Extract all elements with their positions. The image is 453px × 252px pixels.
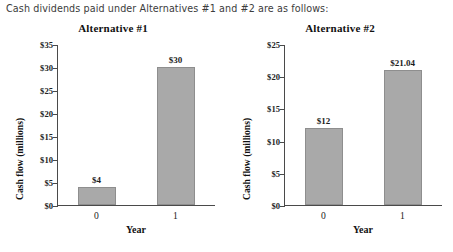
bar: [305, 128, 343, 205]
y-tick-mark: [53, 114, 58, 115]
y-tick-mark: [53, 68, 58, 69]
y-tick-mark: [53, 206, 58, 207]
y-tick-label: $10: [40, 155, 53, 165]
y-tick-mark: [280, 45, 285, 46]
y-tick-label: $25: [40, 86, 53, 96]
x-axis-title: Year: [57, 224, 215, 235]
y-tick-label: $20: [40, 109, 53, 119]
y-tick-mark: [53, 137, 58, 138]
x-tick-label: 0: [94, 210, 99, 221]
y-tick-label: $15: [267, 104, 280, 114]
y-tick-mark: [53, 183, 58, 184]
bar: [384, 70, 422, 205]
y-tick-mark: [280, 142, 285, 143]
y-tick-label: $30: [40, 63, 53, 73]
chart-alternative-1: Alternative #1 Cash flow (millions) $0$5…: [0, 22, 226, 252]
y-axis-title: Cash flow (millions): [14, 118, 25, 200]
y-tick-label: $25: [267, 40, 280, 50]
bar-value-label: $30: [169, 55, 183, 65]
y-axis-title: Cash flow (millions): [241, 118, 252, 200]
x-axis-line: [57, 205, 215, 206]
y-tick-mark: [280, 174, 285, 175]
y-tick-mark: [280, 206, 285, 207]
bar-value-label: $21.04: [390, 58, 415, 68]
y-tick-label: $0: [44, 201, 53, 211]
y-tick-mark: [53, 91, 58, 92]
bar: [157, 67, 195, 205]
y-tick-label: $0: [271, 201, 280, 211]
y-tick-label: $5: [44, 178, 53, 188]
y-tick-mark: [53, 160, 58, 161]
y-tick-label: $15: [40, 132, 53, 142]
chart-title: Alternative #1: [0, 22, 226, 34]
y-axis-line: [284, 45, 285, 206]
x-tick-label: 0: [321, 210, 326, 221]
x-tick-label: 1: [173, 210, 178, 221]
y-axis-line: [57, 45, 58, 206]
bar-value-label: $4: [92, 175, 101, 185]
x-tick-label: 1: [400, 210, 405, 221]
bar: [78, 187, 116, 205]
x-axis-line: [284, 205, 442, 206]
plot-area: $0$5$10$15$20$25$120$21.041: [284, 45, 442, 206]
figure-caption: Cash dividends paid under Alternatives #…: [6, 3, 329, 14]
x-axis-title: Year: [284, 224, 442, 235]
y-tick-mark: [280, 77, 285, 78]
bar-value-label: $12: [317, 116, 331, 126]
y-tick-label: $35: [40, 40, 53, 50]
y-tick-mark: [280, 109, 285, 110]
plot-area: $0$5$10$15$20$25$30$35$40$301: [57, 45, 215, 206]
y-tick-label: $20: [267, 72, 280, 82]
chart-alternative-2: Alternative #2 Cash flow (millions) $0$5…: [227, 22, 453, 252]
chart-title: Alternative #2: [227, 22, 453, 34]
y-tick-label: $5: [271, 169, 280, 179]
y-tick-mark: [53, 45, 58, 46]
y-tick-label: $10: [267, 137, 280, 147]
